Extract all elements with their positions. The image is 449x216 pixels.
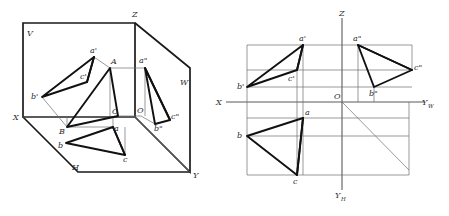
label-z-axis-left: Z xyxy=(131,10,138,19)
label-point-C: C xyxy=(112,107,118,116)
label-a-double-prime-right: a" xyxy=(353,34,361,43)
label-c-right: c xyxy=(293,177,298,186)
label-origin-left: O xyxy=(137,106,144,115)
construction-bprime-to-B xyxy=(42,97,67,127)
projection-figure-svg: V H W X Y Z O A B C a' b' c' a b c a" b"… xyxy=(0,0,449,216)
label-v-plane: V xyxy=(27,29,34,38)
label-c-double-prime-right: c" xyxy=(414,63,422,72)
label-c-prime-right: c' xyxy=(288,74,295,83)
label-b-prime-left: b' xyxy=(31,92,38,101)
label-a-double-prime-left: a" xyxy=(139,56,147,65)
construction-aprime-to-A xyxy=(94,57,110,68)
label-yh-subscript-right: H xyxy=(340,196,346,202)
label-point-B: B xyxy=(58,127,65,136)
label-w-plane: W xyxy=(180,78,189,87)
v-plane-outline xyxy=(23,23,135,117)
label-b-prime-right: b' xyxy=(237,82,244,91)
w-plane-outline xyxy=(135,23,190,172)
left-diagram-group: V H W X Y Z O A B C a' b' c' a b c a" b"… xyxy=(12,10,199,180)
label-c-double-prime-left: c" xyxy=(171,112,179,121)
label-y-axis-left: Y xyxy=(193,171,199,180)
label-c-left: c xyxy=(123,155,128,164)
label-b-double-prime-right: b" xyxy=(369,89,378,98)
top-view-edge-a-c-right xyxy=(297,118,303,175)
label-c-prime-left: c' xyxy=(80,72,87,81)
label-z-axis-right: Z xyxy=(338,9,345,18)
label-b-left: b xyxy=(58,141,63,150)
right-diagram-group: X Z Y W Y H O a' b' c' a" b" c" a b c xyxy=(215,9,435,202)
label-origin-right: O xyxy=(334,92,341,101)
label-a-left: a xyxy=(114,124,119,133)
label-yw-subscript-right: W xyxy=(428,103,435,109)
label-a-prime-right: a' xyxy=(299,34,306,43)
label-a-prime-left: a' xyxy=(90,46,97,55)
label-point-A: A xyxy=(110,57,117,66)
label-x-axis-left: X xyxy=(12,113,19,122)
h-plane-outline xyxy=(23,117,190,172)
label-b-double-prime-left: b" xyxy=(154,124,163,133)
label-a-right: a xyxy=(305,108,310,117)
figure-root: V H W X Y Z O A B C a' b' c' a b c a" b"… xyxy=(0,0,449,216)
top-view-triangle-right xyxy=(247,118,303,175)
label-h-plane: H xyxy=(71,163,80,172)
label-b-right: b xyxy=(237,131,242,140)
label-x-axis-right: X xyxy=(215,98,222,107)
